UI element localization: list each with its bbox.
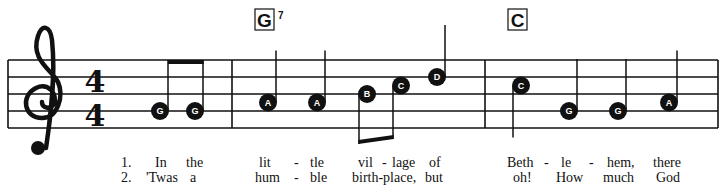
lyric-syllable: the [186,155,203,170]
note-letter: G [565,106,572,116]
chord-c: C [508,9,527,31]
note-letter: C [398,81,405,91]
lyric-syllable: vil [358,155,373,170]
lyric-syllable: but [425,170,443,185]
chord-name: C [511,10,525,31]
note-letter: B [364,89,371,99]
lyric-syllable: God [656,170,680,185]
lyric-syllable: How [556,170,584,185]
lyric-syllable: of [429,155,441,170]
chord-name: G [257,10,272,31]
lyric-syllable: there [653,155,681,170]
time-signature-bottom: 4 [85,98,106,133]
note-letter: A [314,98,321,108]
lyric-hyphen: - [294,170,299,185]
lyric-syllable: In [155,155,167,170]
note-letter: D [434,72,441,82]
note-letter: G [191,106,198,116]
lyric-syllable: lit [259,155,271,170]
time-signature-top: 4 [85,64,106,99]
lyric-hyphen: - [294,155,299,170]
lyric-syllable: hem, [607,155,635,170]
lyric-syllable: a [190,170,197,185]
lyrics-verse-2: 2. 'Twas a hum - ble birth-place, but oh… [121,170,680,185]
note-letter: C [518,81,525,91]
lyric-syllable: much [603,170,634,185]
lyric-syllable: tle [310,155,324,170]
note-letter: A [666,98,673,108]
lyric-hyphen: - [382,155,387,170]
sheet-music: 4 4 G 7 C GGAABCDCGGA 1. In the lit - tl… [0,0,723,192]
lyric-hyphen: - [589,155,594,170]
lyric-syllable: Beth [507,155,533,170]
beam [168,60,204,64]
lyric-syllable: 'Twas [146,170,178,185]
notes: GGAABCDCGGA [151,25,678,144]
lyric-syllable: oh! [513,170,532,185]
treble-clef-icon [26,28,60,155]
lyric-syllable: ble [310,170,327,185]
time-signature: 4 4 [85,64,106,133]
beam [358,135,393,144]
verse-number: 2. [121,170,132,185]
lyric-syllable: birth-place, [352,170,416,185]
note-letter: G [614,106,621,116]
chord-extension: 7 [278,10,284,21]
chord-g7: G 7 [255,9,284,31]
note-letter: A [265,98,272,108]
lyric-syllable: le [561,155,571,170]
lyric-syllable: hum [255,170,280,185]
lyric-syllable: lage [392,155,415,170]
lyric-hyphen: - [544,155,549,170]
verse-number: 1. [121,155,132,170]
lyrics-verse-1: 1. In the lit - tle vil - lage of Beth -… [121,155,681,170]
note-letter: G [156,106,163,116]
